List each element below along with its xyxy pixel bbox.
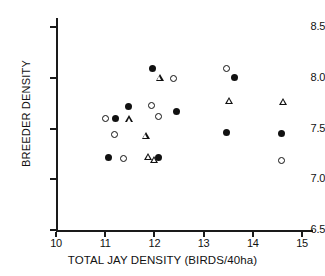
triangle-inner bbox=[281, 100, 285, 104]
triangle-inner bbox=[157, 76, 161, 80]
data-point-filled-circle bbox=[155, 154, 162, 161]
x-axis-title: TOTAL JAY DENSITY (BIRDS/40ha) bbox=[0, 254, 325, 266]
data-point-open-triangle bbox=[142, 132, 150, 139]
data-point-filled-circle bbox=[149, 65, 156, 72]
y-axis-title: BREEDER DENSITY bbox=[21, 39, 32, 189]
plot-area bbox=[0, 0, 325, 276]
data-point-open-circle bbox=[223, 65, 230, 72]
x-tick-label: 12 bbox=[139, 238, 169, 249]
data-point-open-circle bbox=[120, 155, 127, 162]
triangle-inner bbox=[146, 155, 150, 159]
data-point-filled-circle bbox=[223, 129, 230, 136]
data-point-filled-circle bbox=[173, 108, 180, 115]
triangle-inner bbox=[152, 158, 156, 162]
data-point-filled-circle bbox=[125, 103, 132, 110]
y-tick-mark bbox=[50, 178, 56, 180]
y-tick-label: 8.5 bbox=[281, 21, 325, 32]
data-point-filled-circle bbox=[112, 115, 119, 122]
x-tick-label: 14 bbox=[238, 238, 268, 249]
data-point-open-triangle bbox=[125, 115, 133, 122]
triangle-inner bbox=[127, 118, 131, 122]
data-point-open-circle bbox=[148, 102, 155, 109]
data-point-open-circle bbox=[102, 115, 109, 122]
data-point-filled-circle bbox=[105, 154, 112, 161]
x-tick-label: 11 bbox=[90, 238, 120, 249]
data-point-filled-circle bbox=[231, 74, 238, 81]
data-point-open-triangle bbox=[156, 74, 164, 81]
y-tick-label: 7.0 bbox=[281, 173, 325, 184]
scatter-chart: 6.57.07.58.08.5 101112131415 BREEDER DEN… bbox=[0, 0, 325, 276]
y-tick-label: 8.0 bbox=[281, 72, 325, 83]
x-tick-label: 10 bbox=[41, 238, 71, 249]
data-point-open-circle bbox=[170, 75, 177, 82]
triangle-inner bbox=[227, 99, 231, 103]
x-tick-label: 15 bbox=[287, 238, 317, 249]
y-tick-mark bbox=[50, 26, 56, 28]
y-tick-label: 6.5 bbox=[281, 224, 325, 235]
data-point-open-triangle bbox=[150, 156, 158, 163]
data-point-open-triangle bbox=[225, 97, 233, 104]
y-tick-mark bbox=[50, 77, 56, 79]
x-axis-line bbox=[56, 230, 313, 232]
data-point-open-triangle bbox=[144, 153, 152, 160]
data-point-open-circle bbox=[155, 113, 162, 120]
y-tick-mark bbox=[50, 229, 56, 231]
data-point-open-circle bbox=[278, 157, 285, 164]
triangle-inner bbox=[143, 134, 147, 138]
y-tick-mark bbox=[50, 128, 56, 130]
x-tick-label: 13 bbox=[189, 238, 219, 249]
y-tick-label: 7.5 bbox=[281, 123, 325, 134]
data-point-open-circle bbox=[111, 131, 118, 138]
data-point-open-triangle bbox=[279, 98, 287, 105]
y-axis-line bbox=[56, 18, 58, 232]
